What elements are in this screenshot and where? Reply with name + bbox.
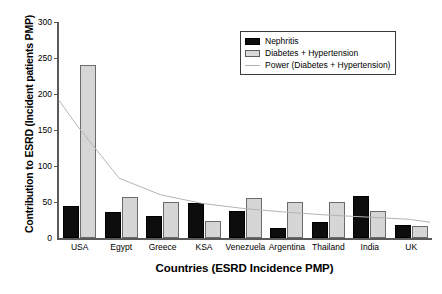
x-axis-tick-label: KSA (183, 242, 224, 252)
chart-figure: Contribution to ESRD (Incident patients … (0, 0, 442, 294)
y-axis-tick-label: 100 (26, 161, 52, 171)
x-axis-tick-label: USA (59, 242, 100, 252)
y-axis-tick-label: 0 (26, 233, 52, 243)
bar-group (100, 22, 141, 238)
legend-label: Diabetes + Hypertension (265, 48, 358, 58)
diabetes-hypertension-swatch-icon (245, 50, 260, 57)
x-axis-tick-label: India (349, 242, 390, 252)
bar-diabetes-hypertension[interactable] (205, 221, 221, 238)
y-axis-tick-mark (54, 58, 57, 59)
bar-nephritis[interactable] (270, 228, 286, 238)
x-axis-tick-label: Greece (142, 242, 183, 252)
bar-nephritis[interactable] (188, 203, 204, 238)
bar-nephritis[interactable] (395, 225, 411, 238)
x-axis-tick-label: UK (391, 242, 432, 252)
y-axis-tick-mark (54, 130, 57, 131)
bar-nephritis[interactable] (353, 196, 369, 238)
bar-diabetes-hypertension[interactable] (122, 197, 138, 238)
y-axis-tick-label: 250 (26, 53, 52, 63)
x-axis-title: Countries (ESRD Incidence PMP) (57, 262, 432, 274)
bar-group (142, 22, 183, 238)
x-axis-tick-label: Egypt (100, 242, 141, 252)
legend-label: Power (Diabetes + Hypertension) (265, 60, 390, 70)
bar-nephritis[interactable] (312, 222, 328, 238)
x-axis-line (57, 238, 432, 240)
bar-diabetes-hypertension[interactable] (246, 198, 262, 238)
bar-group (391, 22, 432, 238)
legend-item-diabetes-hypertension: Diabetes + Hypertension (245, 47, 390, 59)
bar-diabetes-hypertension[interactable] (80, 65, 96, 238)
bar-nephritis[interactable] (229, 211, 245, 238)
bar-nephritis[interactable] (63, 206, 79, 238)
bar-diabetes-hypertension[interactable] (329, 202, 345, 238)
legend-label: Nephritis (265, 36, 299, 46)
nephritis-swatch-icon (245, 38, 260, 45)
chart-legend: Nephritis Diabetes + Hypertension Power … (240, 31, 396, 75)
y-axis-tick-mark (54, 202, 57, 203)
y-axis-tick-label: 150 (26, 125, 52, 135)
y-axis-tick-label: 200 (26, 89, 52, 99)
legend-item-nephritis: Nephritis (245, 35, 390, 47)
bar-diabetes-hypertension[interactable] (163, 202, 179, 238)
power-trend-line-swatch-icon (245, 62, 260, 69)
y-axis-tick-mark (54, 22, 57, 23)
bar-group (183, 22, 224, 238)
bar-nephritis[interactable] (146, 216, 162, 238)
x-axis-tick-labels: USAEgyptGreeceKSAVenezuelaArgentinaThail… (59, 242, 432, 252)
x-axis-tick-label: Argentina (266, 242, 307, 252)
bar-nephritis[interactable] (105, 212, 121, 238)
legend-item-power-trend: Power (Diabetes + Hypertension) (245, 59, 390, 71)
bar-diabetes-hypertension[interactable] (370, 211, 386, 238)
bar-group (59, 22, 100, 238)
y-axis-tick-mark (54, 166, 57, 167)
x-axis-tick-label: Venezuela (225, 242, 266, 252)
bar-diabetes-hypertension[interactable] (287, 202, 303, 238)
y-axis-tick-mark (54, 94, 57, 95)
y-axis-tick-label: 50 (26, 197, 52, 207)
x-axis-tick-label: Thailand (308, 242, 349, 252)
bar-diabetes-hypertension[interactable] (412, 226, 428, 238)
y-axis-tick-label: 300 (26, 17, 52, 27)
